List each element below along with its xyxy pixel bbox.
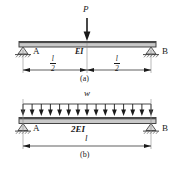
- caption-a: (a): [80, 75, 89, 83]
- stiffness-label-b: 2EI: [71, 125, 85, 134]
- support-label-b-right: B: [162, 124, 168, 133]
- dimension-right-denominator: 2: [114, 65, 120, 73]
- stiffness-label-a: EI: [75, 48, 83, 56]
- dimension-label-right-half: l 2: [114, 55, 120, 73]
- dimension-line-span: [23, 144, 151, 148]
- dimension-extension-lines: [23, 43, 151, 73]
- point-load-arrow: [84, 18, 91, 41]
- figure-root: P EI A B l 2 l 2 (a): [0, 0, 175, 169]
- support-label-b-left: A: [33, 124, 40, 133]
- dimension-label-span: l: [85, 134, 88, 143]
- point-load-label: P: [83, 5, 89, 14]
- dimension-left-numerator: l: [50, 55, 56, 63]
- distributed-load-label: w: [84, 89, 90, 98]
- dimension-left-denominator: 2: [50, 65, 56, 73]
- diagram-b: w 2EI A B l (b): [0, 85, 175, 169]
- diagram-a: P EI A B l 2 l 2 (a): [0, 0, 175, 85]
- support-label-a-right: B: [162, 47, 168, 56]
- dimension-label-left-half: l 2: [50, 55, 56, 73]
- dimension-right-numerator: l: [114, 55, 120, 63]
- caption-b: (b): [80, 151, 89, 159]
- support-label-a-left: A: [33, 47, 40, 56]
- distributed-load-arrows: [21, 104, 154, 116]
